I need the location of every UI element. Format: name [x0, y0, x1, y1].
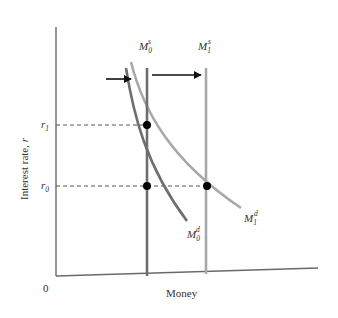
equilibrium-point-r0-left	[143, 182, 151, 190]
origin-label: 0	[43, 282, 49, 294]
money-demand-curve-m0d	[126, 68, 187, 221]
label-m0d: M0d	[186, 225, 200, 243]
equilibrium-point-r1	[143, 121, 151, 129]
equilibrium-point-r0-right	[203, 182, 211, 190]
x-axis	[56, 268, 318, 276]
label-m1s: M1s	[197, 37, 211, 55]
x-axis-title: Money	[166, 287, 198, 299]
tick-label-r1: r1	[41, 118, 49, 133]
y-axis-title: Interest rate, r	[18, 137, 30, 200]
label-m0s: M0s	[138, 37, 152, 55]
reference-lines	[56, 125, 207, 186]
label-m1d: M1d	[243, 209, 258, 227]
tick-label-r0: r0	[41, 179, 49, 194]
money-market-diagram: M0s M1s M0d M1d r1 r0 Interest rate, r M…	[0, 0, 338, 318]
